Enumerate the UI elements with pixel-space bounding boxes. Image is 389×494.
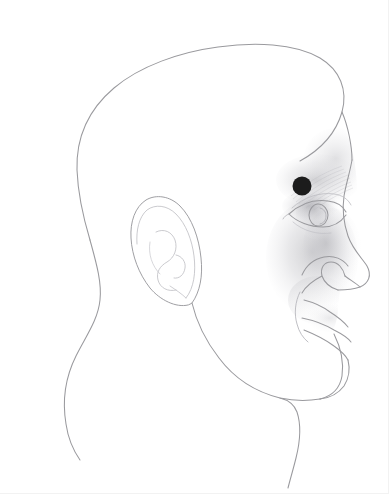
ear-concha — [149, 242, 160, 274]
head-profile-figure: Line drawing of a human head in right-fa… — [0, 0, 389, 494]
markers-group — [293, 177, 312, 196]
injection-site-marker[interactable] — [293, 177, 312, 196]
ear-group — [131, 197, 202, 306]
ear-lobe-crease — [170, 286, 186, 298]
facial-shading-group — [266, 128, 368, 332]
throat-outline — [280, 398, 300, 488]
chin-crease — [320, 360, 349, 399]
ear-helix-inner — [137, 206, 195, 298]
temple-shading — [304, 128, 368, 188]
ear-tragus — [174, 255, 185, 278]
occiput-neck-outline — [64, 240, 100, 460]
anatomical-illustration-canvas — [0, 0, 389, 494]
eye-socket-shading — [282, 190, 338, 222]
ear-antihelix — [156, 230, 176, 290]
